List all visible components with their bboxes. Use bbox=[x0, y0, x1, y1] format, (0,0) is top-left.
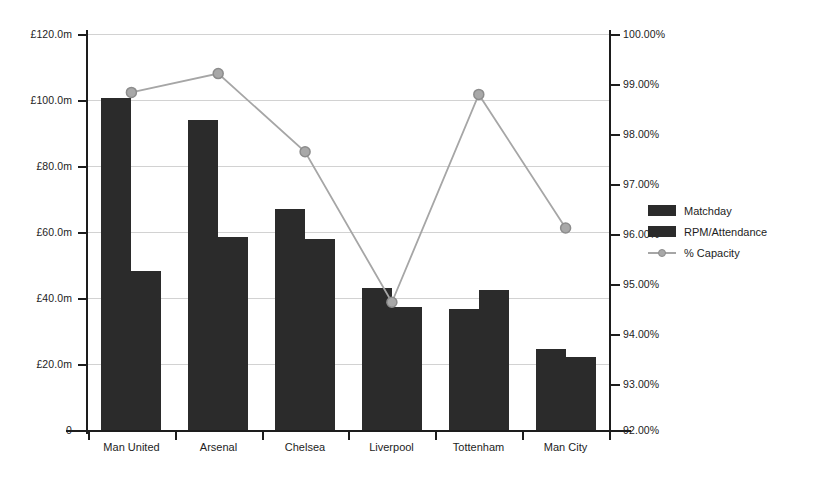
bar-swatch-icon bbox=[648, 226, 676, 237]
capacity-marker-man-united[interactable] bbox=[126, 87, 136, 97]
bar-rpm-tottenham[interactable] bbox=[479, 290, 509, 430]
tick-x-0 bbox=[88, 431, 90, 440]
tick-left-100m bbox=[78, 100, 87, 102]
legend-item-matchday[interactable]: Matchday bbox=[648, 200, 808, 221]
tick-left-120m bbox=[78, 34, 87, 36]
tick-left-40m bbox=[78, 298, 87, 300]
legend-item-rpm-attendance[interactable]: RPM/Attendance bbox=[648, 221, 808, 242]
bar-rpm-chelsea[interactable] bbox=[305, 239, 335, 430]
bar-rpm-arsenal[interactable] bbox=[218, 237, 248, 430]
x-axis-label-arsenal: Arsenal bbox=[175, 441, 262, 453]
y-axis-left-label-0: 0 bbox=[66, 424, 72, 436]
y-axis-left-label-100m: £100.0m bbox=[30, 94, 72, 106]
y-axis-right-label-98pct: 98.00% bbox=[623, 128, 659, 140]
y-axis-right-label-93pct: 93.00% bbox=[623, 378, 659, 390]
tick-right-97pct bbox=[611, 184, 620, 186]
tick-x-2 bbox=[262, 431, 264, 440]
tick-x-5 bbox=[522, 431, 524, 440]
x-axis-label-man-united: Man United bbox=[88, 441, 175, 453]
capacity-marker-arsenal[interactable] bbox=[213, 69, 223, 79]
tick-x-4 bbox=[435, 431, 437, 440]
bar-matchday-man-united[interactable] bbox=[101, 98, 131, 430]
y-axis-left-label-80m: £80.0m bbox=[36, 160, 72, 172]
tick-right-94pct bbox=[611, 334, 620, 336]
bar-rpm-man-united[interactable] bbox=[131, 271, 161, 430]
capacity-marker-chelsea[interactable] bbox=[300, 147, 310, 157]
gridline-20m bbox=[88, 364, 609, 365]
y-axis-right-line bbox=[609, 30, 611, 434]
tick-right-93pct bbox=[611, 384, 620, 386]
gridline-100m bbox=[88, 100, 609, 101]
bar-matchday-chelsea[interactable] bbox=[275, 209, 305, 430]
tick-right-99pct bbox=[611, 84, 620, 86]
gridline-80m bbox=[88, 166, 609, 167]
y-axis-left-label-40m: £40.0m bbox=[36, 292, 72, 304]
tick-right-95pct bbox=[611, 284, 620, 286]
bar-matchday-man-city[interactable] bbox=[536, 349, 566, 430]
tick-x-1 bbox=[175, 431, 177, 440]
tick-right-100pct bbox=[611, 34, 620, 36]
legend-label-capacity: % Capacity bbox=[684, 247, 740, 259]
bar-swatch-icon bbox=[648, 205, 676, 216]
x-axis-label-liverpool: Liverpool bbox=[348, 441, 435, 453]
legend-item-capacity[interactable]: % Capacity bbox=[648, 242, 808, 263]
chart-container: £120.0m £100.0m £80.0m £60.0m £40.0m £20… bbox=[0, 0, 814, 480]
tick-left-80m bbox=[78, 166, 87, 168]
tick-right-96pct bbox=[611, 234, 620, 236]
capacity-marker-tottenham[interactable] bbox=[474, 89, 484, 99]
y-axis-right-label-100pct: 100.00% bbox=[623, 28, 665, 40]
tick-right-92pct bbox=[611, 430, 620, 432]
tick-left-20m bbox=[78, 364, 87, 366]
x-axis-label-tottenham: Tottenham bbox=[435, 441, 522, 453]
legend-label-matchday: Matchday bbox=[684, 205, 732, 217]
legend-label-rpm-attendance: RPM/Attendance bbox=[684, 226, 767, 238]
chart-legend: Matchday RPM/Attendance % Capacity bbox=[648, 200, 808, 263]
gridline-60m bbox=[88, 232, 609, 233]
y-axis-right-label-97pct: 97.00% bbox=[623, 178, 659, 190]
y-axis-right-label-92pct: 92.00% bbox=[623, 424, 659, 436]
y-axis-left-label-120m: £120.0m bbox=[30, 28, 72, 40]
y-axis-right-label-99pct: 99.00% bbox=[623, 78, 659, 90]
bar-rpm-liverpool[interactable] bbox=[392, 307, 422, 430]
y-axis-right-label-95pct: 95.00% bbox=[623, 278, 659, 290]
bar-rpm-man-city[interactable] bbox=[566, 357, 596, 430]
tick-left-60m bbox=[78, 232, 87, 234]
tick-right-98pct bbox=[611, 134, 620, 136]
line-marker-icon bbox=[648, 247, 676, 258]
bar-matchday-tottenham[interactable] bbox=[449, 309, 479, 430]
tick-x-6 bbox=[609, 431, 611, 440]
y-axis-left-label-20m: £20.0m bbox=[36, 358, 72, 370]
gridline-120m bbox=[88, 34, 609, 35]
y-axis-right-label-94pct: 94.00% bbox=[623, 328, 659, 340]
gridline-40m bbox=[88, 298, 609, 299]
tick-left-0 bbox=[78, 430, 87, 432]
x-axis-label-chelsea: Chelsea bbox=[262, 441, 348, 453]
tick-x-3 bbox=[348, 431, 350, 440]
bar-matchday-arsenal[interactable] bbox=[188, 120, 218, 430]
x-axis-label-man-city: Man City bbox=[522, 441, 609, 453]
y-axis-left-label-60m: £60.0m bbox=[36, 226, 72, 238]
bar-matchday-liverpool[interactable] bbox=[362, 288, 392, 430]
